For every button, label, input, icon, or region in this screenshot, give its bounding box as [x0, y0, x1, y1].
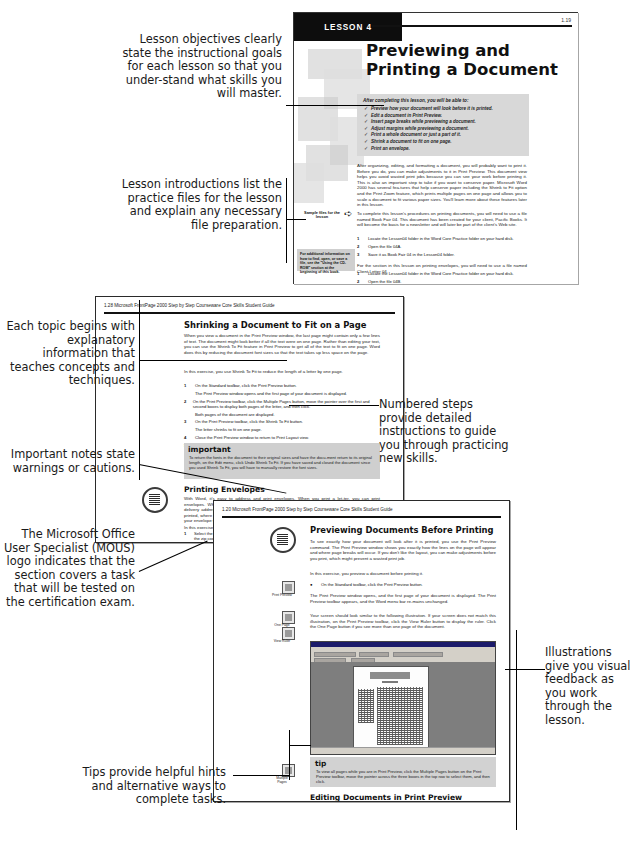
page3-step-text: On the Standard toolbar, click the Print…	[321, 582, 423, 587]
step-text: Open the file 04B.	[368, 279, 402, 284]
mous-logo-page3	[270, 527, 296, 553]
page2-body-2: In this exercise, you use Shrink To Fit …	[184, 369, 380, 375]
book-page-previewing: 1.20 Microsoft FrontPage 2000 Step by St…	[213, 500, 510, 802]
step-result-text: The letter shrinks to fit on one page.	[195, 427, 380, 432]
numbered-step: 1On the Standard toolbar, click the Prin…	[184, 383, 380, 388]
screenshot-preview-page	[353, 666, 429, 750]
step-number: 2	[357, 244, 363, 249]
callout-numbered-steps: Numbered steps provide detailed instruct…	[379, 398, 509, 466]
cdrom-note-box: For additional information on how to fin…	[297, 249, 355, 271]
step-result-text: Both pages of the document are displayed…	[195, 412, 380, 417]
leader-illustrations	[505, 669, 545, 670]
objective-item: ✓Print an envelope.	[364, 146, 524, 151]
mous-logo-inner	[149, 494, 160, 505]
page2-heading: Shrinking a Document to Fit on a Page	[184, 320, 394, 330]
page3-body-3: The Print Preview window opens, and the …	[310, 593, 496, 604]
step-number: 3	[184, 419, 190, 424]
objective-item: ✓Edit a document in Print Preview.	[364, 113, 524, 118]
leader-objectives	[286, 105, 384, 106]
tip-text: To view all pages while you are in Print…	[310, 768, 496, 788]
check-icon: ✓	[364, 119, 368, 124]
word-print-preview-screenshot	[310, 641, 496, 755]
important-text: To return the fonts in the document to t…	[184, 454, 380, 474]
leader-tips-vert	[289, 730, 290, 780]
page3-step-1: ● On the Standard toolbar, click the Pri…	[310, 582, 496, 587]
screenshot-canvas	[311, 662, 495, 748]
step-text: On the Print Preview toolbar, click the …	[195, 419, 303, 424]
page1-title: Previewing and Printing a Document	[366, 41, 566, 79]
leader-intros-vert	[286, 178, 287, 263]
page1-body-2: To complete this lesson's procedures on …	[357, 211, 527, 228]
objective-item: ✓Insert page breaks while previewing a d…	[364, 119, 524, 124]
numbered-step: 2Open the file 04A.	[357, 244, 527, 249]
objective-text: Insert page breaks while previewing a do…	[371, 119, 476, 124]
sample-files-marker: Sample files for the lesson	[300, 211, 344, 220]
step-text: On the Print Preview toolbar, click the …	[193, 399, 380, 409]
step-number: 3	[357, 252, 363, 257]
objective-item: ✓Preview how your document will look bef…	[364, 106, 524, 111]
numbered-step: 1Locate the Lesson04 folder in the Word …	[357, 236, 527, 241]
page3-heading: Previewing Documents Before Printing	[310, 525, 506, 535]
important-box: important To return the fonts in the doc…	[184, 443, 380, 479]
step-number: 1	[184, 383, 190, 388]
step-text: Open the file 04A.	[368, 244, 402, 249]
callout-topics: Each topic begins with explanatory infor…	[0, 320, 135, 388]
page3-body-2: In this exercise, you preview a document…	[310, 571, 496, 577]
page3-step-bullet: ●	[310, 582, 316, 587]
check-icon: ✓	[364, 132, 368, 137]
important-title: important	[184, 443, 380, 454]
step-number: 1	[184, 531, 189, 541]
numbered-step: 3Save it as Book Fair 04 in the Lesson04…	[357, 252, 527, 257]
callout-illustrations: Illustrations give you visual feedback a…	[545, 646, 631, 728]
step-text: Locate the Lesson04 folder in the Word C…	[368, 236, 514, 241]
tip-title: tip	[310, 757, 496, 768]
check-icon: ✓	[364, 126, 368, 131]
callout-objectives: Lesson objectives clearly state the inst…	[120, 33, 282, 101]
step-number: 2	[184, 399, 188, 409]
callout-introductions: Lesson introductions list the practice f…	[120, 178, 282, 232]
tip-box: tip To view all pages while you are in P…	[310, 757, 496, 787]
page2-folio: 1.28 Microsoft FrontPage 2000 Step by St…	[104, 303, 275, 308]
page1-folio: 1.19	[561, 17, 571, 23]
callout-important: Important notes state warnings or cautio…	[0, 448, 135, 475]
objective-text: Preview how your document will look befo…	[371, 106, 493, 111]
leader-tips	[233, 775, 289, 776]
view-ruler-icon-glyph	[285, 630, 292, 637]
mous-logo	[142, 487, 168, 513]
leader-numbered	[289, 405, 379, 406]
leader-mous	[139, 541, 208, 573]
book-page-lesson-opener: LESSON 4 1.19 Previewing and Printing a …	[293, 12, 578, 284]
page3-body-1: To see exactly how your document will lo…	[310, 539, 496, 561]
objectives-heading: After completing this lesson, you will b…	[363, 98, 468, 103]
cdrom-note-text: For additional information on how to fin…	[297, 249, 355, 278]
numbered-step: 4Close the Print Preview window to retur…	[184, 435, 380, 440]
check-icon: ✓	[364, 139, 368, 144]
objective-item: ✓Shrink a document to fit on one page.	[364, 139, 524, 144]
check-icon: ✓	[364, 106, 368, 111]
numbered-step: 3On the Print Preview toolbar, click the…	[184, 419, 380, 424]
page1-sheet: LESSON 4 1.19 Previewing and Printing a …	[293, 12, 578, 284]
objective-text: Edit a document in Print Preview.	[371, 113, 442, 118]
step-number: 2	[357, 279, 363, 284]
objective-item: ✓Adjust margins while previewing a docum…	[364, 126, 524, 131]
editing-heading: Editing Documents in Print Preview	[310, 793, 496, 802]
objective-text: Print a whole document or just a part of…	[371, 132, 461, 137]
step-text: Save it as Book Fair 04 in the Lesson04 …	[368, 252, 455, 257]
page2-steps: 1On the Standard toolbar, click the Prin…	[184, 383, 380, 451]
objective-text: Shrink a document to fit on one page.	[371, 139, 452, 144]
page3-folio: 1.20 Microsoft FrontPage 2000 Step by St…	[222, 507, 393, 512]
callout-tips: Tips provide helpful hints and alternati…	[60, 766, 226, 807]
step-text: Locate the Lesson04 folder in the Word C…	[368, 271, 514, 276]
check-icon: ✓	[364, 146, 368, 151]
step-number: 1	[357, 236, 363, 241]
page2-header-rule	[104, 312, 395, 314]
screenshot-statusbar	[311, 747, 495, 754]
step-number: 1	[357, 271, 363, 276]
step-number: 4	[184, 435, 190, 440]
step-text: Close the Print Preview window to return…	[195, 435, 309, 440]
mous-logo-inner	[277, 534, 288, 545]
sample-files-arrow: ➪	[344, 209, 352, 219]
objective-text: Adjust margins while previewing a docume…	[371, 126, 469, 131]
numbered-step: 1Locate the Lesson04 folder in the Word …	[357, 271, 527, 276]
